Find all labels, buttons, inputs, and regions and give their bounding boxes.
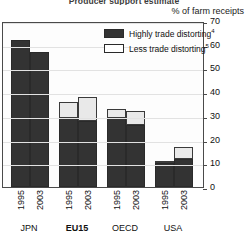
legend-label-1: Less trade distorting5 <box>129 43 209 54</box>
gridline <box>3 165 203 166</box>
bar-segment-highly-trade-distorting <box>30 52 49 187</box>
y-axis-tick <box>203 165 207 166</box>
y-axis-tick-label: 10 <box>210 158 220 168</box>
bar-segment-less-trade-distorting <box>59 102 78 119</box>
chart-title: Producer support estimate <box>0 0 248 5</box>
y-axis-tick-label: 20 <box>210 135 220 145</box>
x-axis-year-label-usa-2003: 2003 <box>179 190 189 210</box>
y-axis-tick-label: 70 <box>210 16 220 26</box>
bar-segment-less-trade-distorting <box>155 161 174 163</box>
gridline <box>3 94 203 95</box>
gridline <box>3 70 203 71</box>
bar-segment-highly-trade-distorting <box>155 163 174 187</box>
gridline <box>3 23 203 24</box>
bar-segment-less-trade-distorting <box>107 109 126 118</box>
x-axis-year-label-jpn-1995: 1995 <box>16 190 26 210</box>
bar-eu15-1995 <box>59 102 78 187</box>
legend-item-less-trade-distorting: Less trade distorting5 <box>104 42 215 55</box>
x-axis-group-label-oecd: OECD <box>106 223 144 233</box>
footnote-marker-5: 5 <box>206 43 209 49</box>
bar-segment-highly-trade-distorting <box>174 159 193 187</box>
bar-segment-highly-trade-distorting <box>107 118 126 187</box>
bar-segment-highly-trade-distorting <box>78 121 97 187</box>
y-axis-tick <box>203 118 207 119</box>
bar-oecd-1995 <box>107 109 126 187</box>
bar-segment-less-trade-distorting <box>174 147 193 159</box>
bar-usa-2003 <box>174 147 193 187</box>
dark-swatch-icon <box>104 29 124 38</box>
x-axis-year-label-eu15-2003: 2003 <box>83 190 93 210</box>
y-axis-tick-label: 40 <box>210 87 220 97</box>
y-axis-tick <box>203 142 207 143</box>
x-axis-group-label-eu15: EU15 <box>58 223 96 233</box>
legend-item-highly-trade-distorting: Highly trade distorting4 <box>104 27 215 40</box>
footnote-marker-4: 4 <box>211 28 214 34</box>
chart-legend: Highly trade distorting4 Less trade dist… <box>104 27 215 57</box>
x-axis-year-label-eu15-1995: 1995 <box>64 190 74 210</box>
producer-support-estimate-chart: Producer support estimate % of farm rece… <box>0 0 248 234</box>
bar-segment-highly-trade-distorting <box>126 125 145 187</box>
y-axis-tick-label: 0 <box>210 182 215 192</box>
legend-label-0: Highly trade distorting4 <box>129 28 215 39</box>
gridline <box>3 142 203 143</box>
x-axis-year-label-usa-1995: 1995 <box>160 190 170 210</box>
x-axis-group-label-jpn: JPN <box>10 223 48 233</box>
bar-segment-highly-trade-distorting <box>59 118 78 187</box>
y-axis-tick <box>203 94 207 95</box>
bar-oecd-2003 <box>126 111 145 187</box>
x-axis-year-label-oecd-1995: 1995 <box>112 190 122 210</box>
y-axis-caption: % of farm receipts <box>171 6 244 16</box>
y-axis-tick-label: 30 <box>210 111 220 121</box>
y-axis-tick-label: 50 <box>210 63 220 73</box>
x-axis-group-label-usa: USA <box>154 223 192 233</box>
y-axis-tick <box>203 23 207 24</box>
light-swatch-icon <box>104 44 124 53</box>
x-axis-year-label-jpn-2003: 2003 <box>35 190 45 210</box>
x-axis: JPNEU15OECDUSA19952003199520031995200319… <box>2 188 204 234</box>
x-axis-year-label-oecd-2003: 2003 <box>131 190 141 210</box>
bar-jpn-2003 <box>30 52 49 187</box>
y-axis-tick <box>203 70 207 71</box>
gridline <box>3 118 203 119</box>
